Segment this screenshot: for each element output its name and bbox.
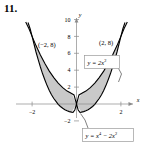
callout-upper-lhs: y =: [87, 59, 97, 66]
figure-container: 11. 10 8 6 4 2 −2 −2: [0, 0, 149, 151]
lower-callout-leader-line: [81, 114, 89, 129]
callout-lower-lhs: y =: [85, 132, 95, 139]
y-tick-label-2: 2: [68, 84, 71, 90]
x-tick-label-neg2: −2: [29, 109, 35, 115]
x-tick-label-2: 2: [119, 109, 122, 115]
callout-lower-exponent-b: 2: [115, 131, 117, 136]
point-label-left: (−2, 8): [38, 41, 56, 49]
x-axis-arrowhead: [129, 102, 134, 106]
callout-box-upper[interactable]: y = 2x2: [85, 56, 120, 69]
callout-lower-expr-mid: − 2x: [101, 132, 115, 139]
point-label-right: (2, 8): [99, 39, 113, 47]
callout-lower-text: y = x4 − 2x2: [85, 131, 118, 138]
y-tick-label-10: 10: [65, 17, 71, 23]
y-axis-name-label: y: [78, 12, 82, 18]
y-tick-label-6: 6: [68, 50, 71, 56]
x-axis-name-label: x: [136, 97, 140, 103]
y-tick-label-8: 8: [68, 34, 71, 40]
callout-upper-text: y = 2x2: [87, 58, 107, 65]
callout-box-lower[interactable]: y = x4 − 2x2: [83, 129, 134, 142]
callout-upper-exponent: 2: [104, 58, 106, 63]
plot-canvas: 10 8 6 4 2 −2 −2 2 x y (−2, 8) (2, 8) y …: [0, 0, 149, 151]
y-tick-label-neg2: −2: [64, 118, 70, 124]
y-tick-label-4: 4: [68, 67, 71, 73]
y-axis-arrowhead: [75, 18, 79, 23]
upper-callout-leader-line: [118, 68, 122, 83]
